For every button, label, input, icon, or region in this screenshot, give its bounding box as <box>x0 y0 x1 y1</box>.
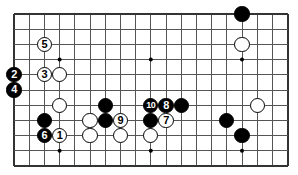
move-number-label: 2 <box>11 69 17 80</box>
white-stone[interactable] <box>52 98 67 113</box>
white-stone[interactable] <box>250 98 265 113</box>
move-number-label: 5 <box>42 39 48 50</box>
black-stone[interactable] <box>174 98 189 113</box>
go-board-grid[interactable] <box>0 0 298 175</box>
go-board-diagram: 52341089761 <box>0 0 298 175</box>
star-point <box>58 149 62 153</box>
move-number-label: 8 <box>163 100 169 111</box>
black-stone[interactable] <box>234 128 249 143</box>
move-number-label: 9 <box>118 115 124 126</box>
white-stone[interactable] <box>82 128 97 143</box>
white-move-9[interactable]: 9 <box>113 113 128 128</box>
star-point <box>240 58 244 62</box>
black-move-4[interactable]: 4 <box>6 82 21 97</box>
white-move-5[interactable]: 5 <box>37 37 52 52</box>
black-stone[interactable] <box>98 113 113 128</box>
black-stone[interactable] <box>37 113 52 128</box>
move-number-label: 3 <box>42 69 48 80</box>
move-number-label: 7 <box>163 115 169 126</box>
move-number-label: 1 <box>57 130 63 141</box>
star-point <box>149 149 153 153</box>
white-move-7[interactable]: 7 <box>158 113 173 128</box>
move-number-label: 10 <box>146 101 155 110</box>
black-stone[interactable] <box>234 6 249 21</box>
star-point <box>58 58 62 62</box>
black-move-2[interactable]: 2 <box>6 67 21 82</box>
white-stone[interactable] <box>82 113 97 128</box>
black-move-8[interactable]: 8 <box>158 98 173 113</box>
white-stone[interactable] <box>234 37 249 52</box>
move-number-label: 4 <box>11 85 17 96</box>
star-point <box>240 149 244 153</box>
black-stone[interactable] <box>98 98 113 113</box>
star-point <box>149 58 153 62</box>
move-number-label: 6 <box>42 130 48 141</box>
